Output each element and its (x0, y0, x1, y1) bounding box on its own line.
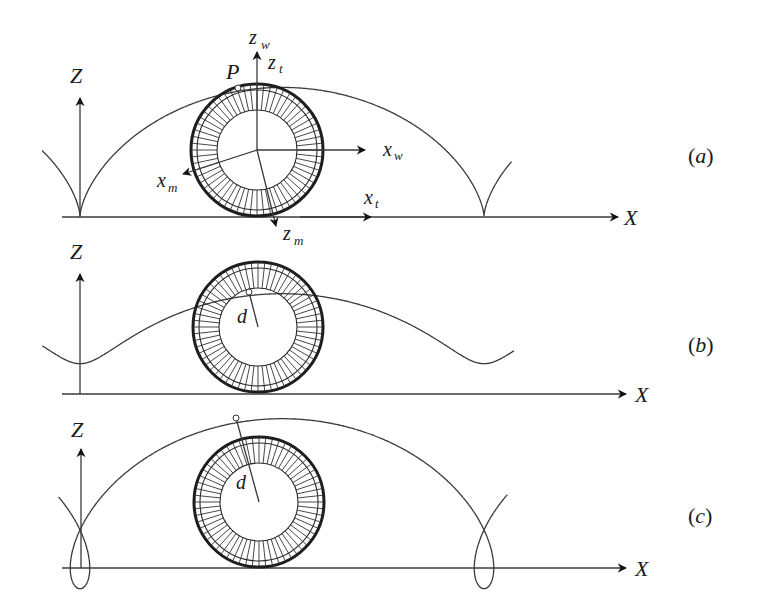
svg-text:t: t (375, 196, 379, 211)
z-axis-label: Z (71, 417, 84, 442)
svg-text:w: w (261, 37, 270, 52)
x-m-axis-arrow (183, 150, 257, 174)
svg-text:m: m (168, 180, 177, 195)
distance-d-label: d (236, 471, 247, 493)
tracing-point-marker (233, 415, 239, 421)
x-t-label: x t (363, 186, 379, 211)
panel-label-a: (a) (688, 143, 714, 168)
x-axis-label: X (634, 556, 650, 581)
panel-label-b: (b) (688, 332, 714, 357)
svg-text:z: z (282, 222, 291, 244)
point-p-label: P (225, 59, 239, 84)
svg-text:t: t (279, 61, 283, 76)
svg-text:m: m (294, 233, 303, 248)
tracing-point-marker (246, 289, 252, 295)
panel-b: Z X d (b) (42, 239, 713, 407)
x-axis-label: X (623, 205, 639, 230)
z-t-label: z t (267, 51, 283, 76)
panel-label-c: (c) (688, 503, 712, 528)
svg-text:x: x (382, 138, 392, 160)
svg-text:x: x (363, 186, 373, 208)
z-m-label: z m (282, 222, 303, 248)
panel-a: Z X P z w z t x w x t x m z m (a) (42, 26, 714, 248)
svg-text:z: z (267, 51, 276, 73)
point-p-marker (235, 85, 241, 91)
x-w-label: x w (382, 138, 403, 163)
svg-text:z: z (248, 26, 257, 48)
z-w-label: z w (248, 26, 270, 52)
x-m-label: x m (156, 169, 177, 195)
cycloid-curve (42, 87, 512, 216)
z-axis-label: Z (70, 239, 83, 264)
panel-c: Z X d (c) (59, 415, 713, 589)
svg-text:w: w (394, 148, 403, 163)
curtate-trochoid-curve (42, 294, 514, 364)
distance-d-label: d (237, 305, 248, 327)
svg-text:x: x (156, 169, 166, 191)
rolling-wheel-figure: Z X P z w z t x w x t x m z m (a) (0, 0, 757, 614)
distance-d-line (249, 292, 258, 327)
x-axis-label: X (634, 382, 650, 407)
z-axis-label: Z (70, 63, 83, 88)
